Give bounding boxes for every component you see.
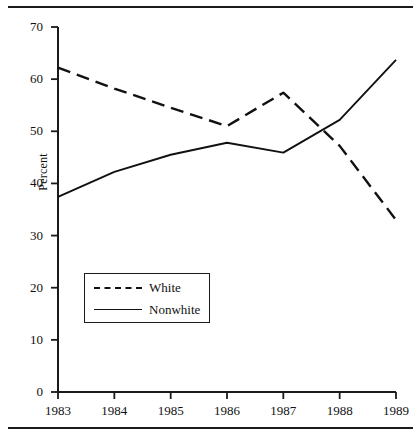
plot-area	[0, 0, 419, 442]
legend-item-white: White	[85, 277, 211, 299]
x-tick-label: 1989	[373, 404, 419, 417]
x-tick-label: 1988	[317, 404, 363, 417]
y-axis-title: Percent	[36, 132, 51, 212]
data-series-group	[58, 60, 396, 220]
y-tick-label: 50	[13, 124, 43, 137]
x-tick-label: 1983	[35, 404, 81, 417]
y-tick-label: 70	[13, 20, 43, 33]
x-tick-label: 1986	[204, 404, 250, 417]
series-line-white	[58, 68, 396, 220]
x-tick-label: 1984	[91, 404, 137, 417]
legend-swatch-solid-icon	[94, 309, 142, 310]
chart-legend: White Nonwhite	[84, 273, 210, 323]
x-axis-ticks	[58, 392, 396, 399]
legend-item-nonwhite: Nonwhite	[85, 299, 211, 321]
chart-figure: Percent 010203040506070 1983198419851986…	[0, 0, 419, 442]
y-tick-label: 30	[13, 229, 43, 242]
x-tick-label: 1987	[260, 404, 306, 417]
x-tick-label: 1985	[148, 404, 194, 417]
series-line-nonwhite	[58, 60, 396, 197]
legend-label-nonwhite: Nonwhite	[149, 301, 200, 319]
y-tick-label: 10	[13, 333, 43, 346]
y-axis-ticks	[51, 27, 58, 392]
y-tick-label: 0	[13, 385, 43, 398]
legend-swatch-dashed-icon	[94, 287, 142, 289]
legend-label-white: White	[149, 279, 181, 297]
y-tick-label: 40	[13, 176, 43, 189]
y-tick-label: 20	[13, 281, 43, 294]
y-tick-label: 60	[13, 72, 43, 85]
